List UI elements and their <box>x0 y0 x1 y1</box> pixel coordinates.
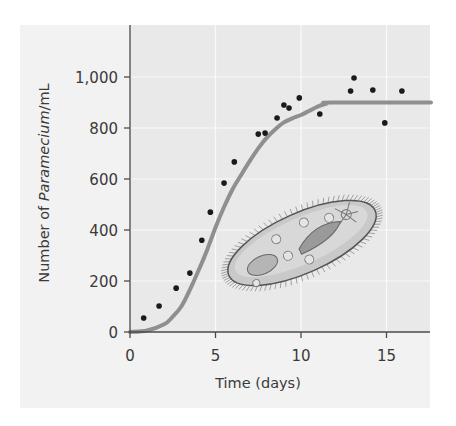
data-point <box>348 88 354 94</box>
data-point <box>187 270 193 276</box>
data-point <box>232 159 238 165</box>
x-tick-label: 10 <box>291 347 310 365</box>
y-tick-label: 600 <box>89 171 118 189</box>
data-point <box>296 95 302 101</box>
data-point <box>156 303 162 309</box>
data-point <box>281 102 287 108</box>
y-tick-label: 1,000 <box>75 69 118 87</box>
y-tick-label: 400 <box>89 222 118 240</box>
data-point <box>382 120 388 126</box>
data-point <box>399 88 405 94</box>
data-point <box>173 285 179 291</box>
data-point <box>274 115 280 121</box>
data-point <box>317 111 323 117</box>
y-axis-title: Number of Paramecium/mL <box>36 83 52 282</box>
data-point <box>141 315 147 321</box>
y-tick-label: 0 <box>108 324 118 342</box>
chart: 02004006008001,000 051015 Time (days) Nu… <box>0 0 456 426</box>
y-tick-label: 200 <box>89 273 118 291</box>
x-tick-label: 15 <box>377 347 396 365</box>
x-axis-ticks: 051015 <box>125 332 396 365</box>
data-point <box>262 130 268 136</box>
data-point <box>199 237 205 243</box>
data-point <box>255 131 261 137</box>
y-axis-ticks: 02004006008001,000 <box>75 69 130 342</box>
data-point <box>370 87 376 93</box>
data-point <box>286 105 292 111</box>
x-axis-title: Time (days) <box>214 375 301 391</box>
data-point <box>221 180 227 186</box>
y-tick-label: 800 <box>89 120 118 138</box>
x-tick-label: 5 <box>211 347 221 365</box>
data-point <box>208 209 214 215</box>
data-point <box>351 75 357 81</box>
x-tick-label: 0 <box>125 347 135 365</box>
